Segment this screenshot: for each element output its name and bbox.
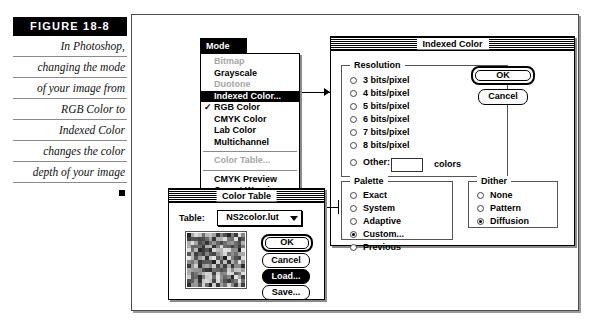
radio-custom[interactable]: Custom...	[347, 228, 452, 241]
radio-icon[interactable]	[350, 103, 357, 110]
radio-label: 7 bits/pixel	[363, 127, 410, 137]
caption-line: changes the color	[13, 141, 127, 162]
palette-options[interactable]: Exact System Adaptive Custom... Previous	[342, 182, 452, 254]
menu-title-mode[interactable]: Mode	[200, 38, 247, 53]
radio-pattern[interactable]: Pattern	[474, 202, 557, 215]
caption-line: RGB Color to	[13, 99, 127, 120]
menu-separator	[203, 151, 297, 152]
checkmark-icon: ✓	[204, 102, 212, 114]
figure-number-label: FIGURE 18-8	[13, 17, 127, 36]
indexed-cancel-button[interactable]: Cancel	[478, 89, 528, 105]
color-table-ok-button[interactable]: OK	[261, 234, 313, 252]
radio-icon[interactable]	[350, 142, 357, 149]
table-popup-menu[interactable]: NS2color.lut	[217, 210, 302, 226]
radio-label: Other:	[363, 157, 390, 167]
radio-icon[interactable]	[477, 192, 484, 199]
caption-line: In Photoshop,	[13, 36, 127, 57]
caption-end-marker	[13, 183, 127, 204]
radio-label: Adaptive	[363, 216, 401, 226]
caption-line: depth of your image	[13, 162, 127, 183]
indexed-ok-button-label: OK	[475, 70, 531, 81]
dialog-body: Table: NS2color.lut OK Cancel Load... Sa…	[169, 203, 324, 298]
dialog-title: Color Table	[216, 190, 277, 201]
radio-none[interactable]: None	[474, 189, 557, 202]
radio-other[interactable]: Other:	[347, 156, 507, 169]
caption-line: changing the mode	[13, 57, 127, 78]
radio-icon[interactable]	[477, 218, 484, 225]
color-table-cancel-button[interactable]: Cancel	[262, 253, 310, 268]
color-table-save-button[interactable]: Save...	[262, 285, 310, 300]
dialog-body: Resolution 3 bits/pixel 4 bits/pixel 5 b…	[331, 51, 574, 244]
menu-item-label: Duotone	[214, 79, 251, 89]
radio-icon[interactable]	[350, 218, 357, 225]
table-label: Table:	[179, 213, 205, 223]
menu-item-lab-color[interactable]: Lab Color	[201, 125, 299, 137]
radio-label: None	[490, 190, 513, 200]
dialog-title-bar: Color Table	[169, 189, 324, 203]
menu-separator	[203, 170, 297, 171]
radio-icon[interactable]	[350, 244, 357, 251]
radio-icon[interactable]	[350, 129, 357, 136]
radio-icon[interactable]	[350, 159, 357, 166]
radio-label: Previous	[363, 242, 401, 252]
menu-item-multichannel[interactable]: Multichannel	[201, 137, 299, 149]
radio-7-bits[interactable]: 7 bits/pixel	[347, 126, 507, 139]
radio-label: Exact	[363, 190, 387, 200]
radio-icon[interactable]	[350, 205, 357, 212]
resolution-legend: Resolution	[350, 60, 405, 70]
dither-options[interactable]: None Pattern Diffusion	[469, 182, 557, 228]
radio-icon[interactable]	[350, 90, 357, 97]
indexed-color-dialog: Indexed Color Resolution 3 bits/pixel 4 …	[330, 36, 575, 246]
menu-item-indexed-color[interactable]: Indexed Color...	[201, 91, 299, 103]
radio-system[interactable]: System	[347, 202, 452, 215]
other-colors-input[interactable]	[391, 158, 423, 172]
radio-previous[interactable]: Previous	[347, 241, 452, 254]
menu-item-label: CMYK Preview	[214, 174, 277, 184]
menu-item-label: Indexed Color...	[214, 91, 281, 101]
radio-icon[interactable]	[350, 231, 357, 238]
radio-icon[interactable]	[477, 205, 484, 212]
table-popup-value: NS2color.lut	[218, 212, 287, 222]
radio-adaptive[interactable]: Adaptive	[347, 215, 452, 228]
dither-legend: Dither	[477, 176, 511, 186]
end-square-icon	[119, 190, 125, 196]
menu-item-label: Bitmap	[214, 56, 245, 66]
menu-item-label: RGB Color	[214, 102, 260, 112]
menu-item-duotone[interactable]: Duotone	[201, 79, 299, 91]
menu-item-bitmap[interactable]: Bitmap	[201, 56, 299, 68]
color-swatch-grid[interactable]	[185, 231, 247, 289]
radio-8-bits[interactable]: 8 bits/pixel	[347, 139, 507, 152]
menu-item-color-table[interactable]: Color Table...	[201, 155, 299, 167]
radio-exact[interactable]: Exact	[347, 189, 452, 202]
radio-icon[interactable]	[350, 192, 357, 199]
menu-item-label: CMYK Color	[214, 114, 267, 124]
radio-diffusion[interactable]: Diffusion	[474, 215, 557, 228]
mode-menu-list[interactable]: Bitmap Grayscale Duotone Indexed Color..…	[200, 53, 300, 200]
color-swatch-cell[interactable]	[241, 283, 245, 287]
chevron-down-icon	[290, 216, 298, 221]
caption-line: Indexed Color	[13, 120, 127, 141]
radio-label: Pattern	[490, 203, 521, 213]
figure-caption-block: FIGURE 18-8 In Photoshop, changing the m…	[13, 17, 127, 204]
radio-label: Diffusion	[490, 216, 529, 226]
indexed-ok-button[interactable]: OK	[471, 66, 535, 85]
menu-item-grayscale[interactable]: Grayscale	[201, 68, 299, 80]
menu-item-label: Lab Color	[214, 125, 256, 135]
palette-group: Palette Exact System Adaptive Custom... …	[341, 181, 453, 240]
menu-item-cmyk-color[interactable]: CMYK Color	[201, 114, 299, 126]
radio-label: Custom...	[363, 229, 404, 239]
radio-icon[interactable]	[350, 77, 357, 84]
radio-icon[interactable]	[350, 116, 357, 123]
mode-menu[interactable]: Mode Bitmap Grayscale Duotone Indexed Co…	[200, 38, 300, 200]
menu-item-label: Color Table...	[214, 155, 270, 165]
color-table-load-button[interactable]: Load...	[262, 269, 310, 284]
radio-label: 8 bits/pixel	[363, 140, 410, 150]
menu-item-cmyk-preview[interactable]: CMYK Preview	[201, 174, 299, 186]
radio-6-bits[interactable]: 6 bits/pixel	[347, 113, 507, 126]
color-table-ok-button-label: OK	[265, 237, 309, 249]
menu-item-rgb-color[interactable]: ✓RGB Color	[201, 102, 299, 114]
dialog-title: Indexed Color	[416, 38, 488, 49]
caption-line: of your image from	[13, 78, 127, 99]
palette-legend: Palette	[350, 176, 388, 186]
radio-label: 6 bits/pixel	[363, 114, 410, 124]
